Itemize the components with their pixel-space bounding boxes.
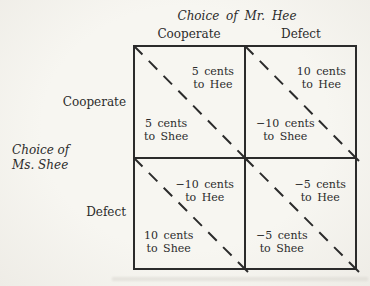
payoff-amount: −10 cents bbox=[175, 178, 234, 191]
cell-cooperate-defect: 10 cents to Hee −10 cents to Shee bbox=[245, 45, 357, 158]
row-player-title-line1: Choice of bbox=[12, 143, 69, 158]
payoff-hee: 10 cents to Hee bbox=[297, 65, 346, 91]
cell-cooperate-cooperate: 5 cents to Hee 5 cents to Shee bbox=[133, 45, 245, 158]
cell-defect-cooperate: −10 cents to Hee 10 cents to Shee bbox=[133, 158, 245, 270]
scan-shadow-artifact bbox=[112, 277, 368, 281]
payoff-recipient: to Hee bbox=[192, 78, 234, 91]
cell-defect-defect: −5 cents to Hee −5 cents to Shee bbox=[245, 158, 357, 270]
payoff-amount: 5 cents bbox=[192, 65, 234, 78]
payoff-recipient: to Hee bbox=[294, 191, 346, 204]
row-label-cooperate: Cooperate bbox=[40, 95, 126, 109]
payoff-shee: 5 cents to Shee bbox=[144, 117, 188, 143]
payoff-shee: −10 cents to Shee bbox=[256, 117, 315, 143]
payoff-recipient: to Hee bbox=[175, 191, 234, 204]
payoff-hee: −10 cents to Hee bbox=[175, 178, 234, 204]
payoff-hee: 5 cents to Hee bbox=[192, 65, 234, 91]
column-header-defect: Defect bbox=[245, 27, 357, 41]
row-label-defect: Defect bbox=[40, 205, 126, 219]
payoff-shee: −5 cents to Shee bbox=[256, 229, 308, 255]
payoff-amount: −5 cents bbox=[294, 178, 346, 191]
payoff-recipient: to Shee bbox=[144, 242, 193, 255]
payoff-grid: 5 cents to Hee 5 cents to Shee 10 cents … bbox=[133, 45, 357, 270]
payoff-shee: 10 cents to Shee bbox=[144, 229, 193, 255]
row-player-title: Choice of Ms. Shee bbox=[12, 143, 69, 173]
payoff-amount: −10 cents bbox=[256, 117, 315, 130]
payoff-recipient: to Shee bbox=[256, 130, 315, 143]
payoff-hee: −5 cents to Hee bbox=[294, 178, 346, 204]
payoff-amount: 5 cents bbox=[144, 117, 188, 130]
payoff-recipient: to Shee bbox=[144, 130, 188, 143]
column-player-title: Choice of Mr. Hee bbox=[125, 9, 349, 23]
column-header-cooperate: Cooperate bbox=[133, 27, 245, 41]
payoff-amount: −5 cents bbox=[256, 229, 308, 242]
payoff-amount: 10 cents bbox=[144, 229, 193, 242]
payoff-amount: 10 cents bbox=[297, 65, 346, 78]
payoff-recipient: to Shee bbox=[256, 242, 308, 255]
payoff-recipient: to Hee bbox=[297, 78, 346, 91]
payoff-matrix-figure: Choice of Mr. Hee Cooperate Defect Coope… bbox=[0, 0, 370, 286]
row-player-title-line2: Ms. Shee bbox=[12, 158, 69, 173]
